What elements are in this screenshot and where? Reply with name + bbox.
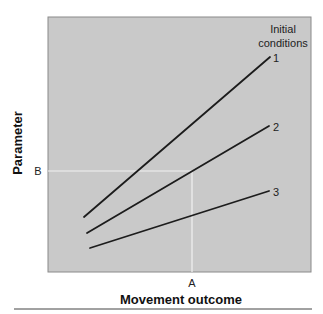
series-label-1: 1 <box>273 52 279 64</box>
legend-title-line1: Initial <box>270 23 296 35</box>
schema-diagram: Initial conditions 1 2 3 B A Parameter M… <box>0 0 323 314</box>
y-tick-b: B <box>34 165 41 177</box>
x-axis-title: Movement outcome <box>120 292 242 307</box>
y-axis-title: Parameter <box>10 111 25 175</box>
x-tick-a: A <box>188 277 196 289</box>
series-label-3: 3 <box>273 186 279 198</box>
series-label-2: 2 <box>273 121 279 133</box>
legend-title-line2: conditions <box>258 37 308 49</box>
